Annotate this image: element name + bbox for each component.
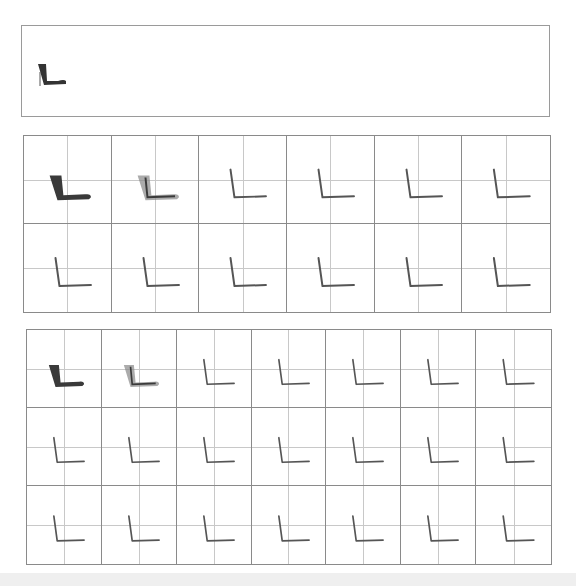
practice-cell bbox=[27, 408, 102, 486]
practice-cell bbox=[112, 136, 200, 224]
practice-cell bbox=[326, 408, 401, 486]
letter-l-icon bbox=[476, 408, 551, 485]
practice-cell bbox=[476, 408, 551, 486]
letter-l-icon bbox=[177, 330, 251, 407]
letter-l-icon bbox=[287, 224, 374, 312]
practice-cell bbox=[375, 224, 463, 312]
letter-l-icon bbox=[462, 136, 550, 223]
practice-cell bbox=[476, 486, 551, 564]
practice-cell bbox=[177, 330, 252, 408]
letter-l-icon bbox=[401, 330, 475, 407]
letter-l-icon bbox=[102, 408, 176, 485]
practice-cell bbox=[252, 408, 327, 486]
practice-cell bbox=[24, 224, 112, 312]
practice-cell bbox=[462, 136, 550, 224]
practice-cell bbox=[177, 408, 252, 486]
letter-l-icon bbox=[476, 486, 551, 564]
letter-l-icon bbox=[252, 408, 326, 485]
letter-l-icon bbox=[177, 486, 251, 564]
practice-cell bbox=[177, 486, 252, 564]
practice-cell bbox=[27, 330, 102, 408]
letter-l-icon bbox=[102, 330, 176, 407]
practice-grid-2 bbox=[26, 329, 552, 565]
letter-l-icon bbox=[199, 224, 286, 312]
practice-cell bbox=[252, 330, 327, 408]
practice-cell bbox=[199, 136, 287, 224]
practice-cell bbox=[112, 224, 200, 312]
practice-cell bbox=[102, 330, 177, 408]
practice-cell bbox=[252, 486, 327, 564]
practice-cell bbox=[102, 408, 177, 486]
practice-cell bbox=[27, 486, 102, 564]
practice-grid-1 bbox=[23, 135, 551, 313]
practice-cell bbox=[287, 224, 375, 312]
letter-l-icon bbox=[27, 330, 101, 407]
practice-cell bbox=[401, 330, 476, 408]
letter-l-icon bbox=[24, 136, 111, 223]
letter-l-icon bbox=[177, 408, 251, 485]
letter-l-icon bbox=[252, 330, 326, 407]
practice-cell bbox=[401, 486, 476, 564]
letter-l-icon bbox=[326, 408, 400, 485]
practice-cell bbox=[326, 330, 401, 408]
practice-cell bbox=[326, 486, 401, 564]
letter-l-icon bbox=[326, 330, 400, 407]
practice-cell bbox=[24, 136, 112, 224]
practice-cell bbox=[401, 408, 476, 486]
letter-l-icon bbox=[27, 408, 101, 485]
letter-l-icon bbox=[287, 136, 374, 223]
letter-l-icon bbox=[326, 486, 400, 564]
letter-l-icon bbox=[401, 408, 475, 485]
letter-l-icon bbox=[27, 486, 101, 564]
letter-l-icon bbox=[102, 486, 176, 564]
practice-cell bbox=[375, 136, 463, 224]
practice-cell bbox=[462, 224, 550, 312]
practice-cell bbox=[476, 330, 551, 408]
stroke-demo-box bbox=[21, 25, 550, 117]
letter-l-icon bbox=[199, 136, 286, 223]
letter-l-icon bbox=[401, 486, 475, 564]
letter-l-icon bbox=[462, 224, 550, 312]
page-footer-band bbox=[0, 573, 576, 586]
letter-l-icon bbox=[112, 224, 199, 312]
letter-l-icon bbox=[375, 224, 462, 312]
practice-cell bbox=[102, 486, 177, 564]
letter-l-icon bbox=[252, 486, 326, 564]
practice-cell bbox=[199, 224, 287, 312]
letter-l-icon bbox=[375, 136, 462, 223]
letter-l-icon bbox=[112, 136, 199, 223]
letter-l-stroke-demo-icon bbox=[22, 26, 102, 86]
letter-l-icon bbox=[24, 224, 111, 312]
practice-cell bbox=[287, 136, 375, 224]
letter-l-icon bbox=[476, 330, 551, 407]
